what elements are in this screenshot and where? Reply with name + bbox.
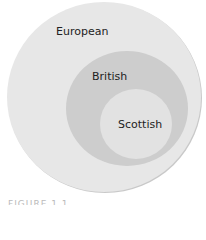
british-label: British — [92, 70, 127, 83]
scottish-label: Scottish — [118, 118, 162, 131]
figure-caption: FIGURE 1.1 — [8, 199, 69, 205]
european-label: European — [56, 25, 108, 38]
